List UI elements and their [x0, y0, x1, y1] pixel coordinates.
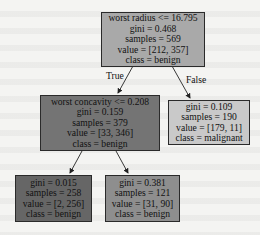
node-class: class = benign: [26, 209, 81, 219]
edge-label-false: False: [186, 74, 206, 85]
edge-left-leftleft: [70, 151, 82, 173]
node-class: class = benign: [73, 139, 128, 149]
edge-label-true: True: [106, 70, 124, 81]
node-samples: samples = 121: [115, 188, 171, 198]
edge-left-leftright: [116, 151, 128, 173]
tree-node-left: worst concavity <= 0.208 gini = 0.159 sa…: [40, 95, 160, 151]
tree-node-right: gini = 0.109 samples = 190 value = [179,…: [168, 100, 250, 145]
tree-node-left-left: gini = 0.015 samples = 258 value = [2, 2…: [15, 175, 92, 222]
node-class: class = benign: [115, 209, 170, 219]
node-class: class = benign: [126, 55, 181, 65]
tree-node-left-right: gini = 0.381 samples = 121 value = [31, …: [105, 175, 180, 222]
tree-node-root: worst radius <= 16.795 gini = 0.468 samp…: [101, 12, 205, 67]
node-samples: samples = 190: [181, 112, 237, 122]
node-class: class = malignant: [175, 133, 242, 143]
node-samples: samples = 258: [26, 188, 82, 198]
